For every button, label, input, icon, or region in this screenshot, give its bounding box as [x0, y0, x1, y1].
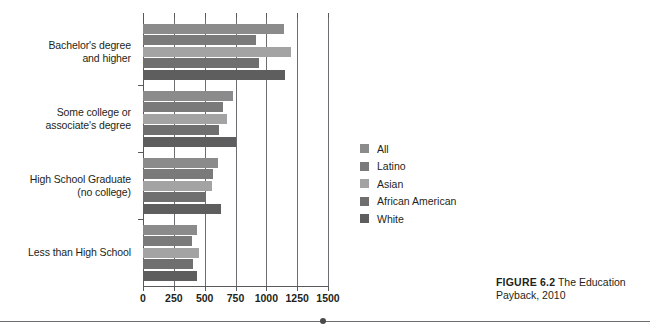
legend-label: All — [377, 143, 389, 155]
category-label: High School Graduate(no college) — [3, 173, 131, 198]
bar — [143, 70, 285, 80]
bar — [143, 271, 197, 281]
bar — [143, 169, 213, 179]
category-label-line: Some college or — [3, 106, 131, 119]
bar-fill — [143, 192, 206, 202]
bar — [143, 114, 227, 124]
bar-group — [143, 219, 328, 286]
bar-group — [143, 152, 328, 219]
legend-swatch-icon — [360, 144, 369, 153]
category-label-line: High School Graduate — [3, 173, 131, 186]
bar-fill — [143, 58, 259, 68]
bar-fill — [143, 24, 284, 34]
bar-fill — [143, 169, 213, 179]
legend-item: All — [360, 141, 456, 156]
bar — [143, 158, 218, 168]
legend-label: African American — [377, 195, 456, 207]
legend-swatch-icon — [360, 197, 369, 206]
tick-top-1500 — [328, 13, 329, 18]
bar-fill — [143, 204, 221, 214]
bar-group — [143, 85, 328, 152]
x-tick-label: 1000 — [255, 292, 278, 304]
bar-fill — [143, 225, 197, 235]
bar — [143, 225, 197, 235]
bar — [143, 181, 212, 191]
legend-swatch-icon — [360, 162, 369, 171]
tick-bottom-1000 — [266, 286, 267, 291]
bar — [143, 91, 233, 101]
tick-bottom-500 — [205, 286, 206, 291]
tick-bottom-250 — [174, 286, 175, 291]
tick-bottom-750 — [236, 286, 237, 291]
bar-fill — [143, 114, 227, 124]
bar-fill — [143, 259, 193, 269]
legend-label: White — [377, 213, 404, 225]
bar-fill — [143, 91, 233, 101]
legend-item: Latino — [360, 159, 456, 174]
figure-caption: FIGURE 6.2 The Education Payback, 2010 — [496, 276, 642, 302]
x-tick-label: 250 — [165, 292, 183, 304]
bar — [143, 35, 256, 45]
chart-legend: AllLatinoAsianAfrican AmericanWhite — [360, 141, 456, 229]
bar-fill — [143, 236, 192, 246]
figure-caption-text-one: The — [555, 276, 576, 288]
bar — [143, 125, 219, 135]
chart-plot-area — [143, 18, 328, 286]
legend-swatch-icon — [360, 214, 369, 223]
legend-item: African American — [360, 194, 456, 209]
bar-fill — [143, 158, 218, 168]
legend-swatch-icon — [360, 179, 369, 188]
bar-fill — [143, 102, 223, 112]
page-divider-dot — [320, 318, 326, 324]
bar-fill — [143, 70, 285, 80]
category-label: Bachelor's degreeand higher — [3, 39, 131, 64]
category-label-line: Less than High School — [3, 246, 131, 259]
x-tick-label: 1500 — [316, 292, 339, 304]
bar-fill — [143, 181, 212, 191]
x-tick-label: 0 — [140, 292, 146, 304]
category-label-line: (no college) — [3, 186, 131, 199]
x-tick-label: 1250 — [285, 292, 308, 304]
tick-bottom-1250 — [297, 286, 298, 291]
bar-fill — [143, 271, 197, 281]
tick-bottom-0 — [143, 286, 144, 291]
bar-fill — [143, 47, 291, 57]
category-label: Less than High School — [3, 246, 131, 259]
category-label-line: Bachelor's degree — [3, 39, 131, 52]
bar — [143, 24, 284, 34]
bar — [143, 248, 199, 258]
bar — [143, 58, 259, 68]
x-tick-label: 500 — [196, 292, 214, 304]
category-label-line: and higher — [3, 52, 131, 65]
bar — [143, 47, 291, 57]
gridline-1500 — [328, 18, 329, 286]
bar-fill — [143, 35, 256, 45]
legend-item: White — [360, 211, 456, 226]
category-label-line: associate's degree — [3, 119, 131, 132]
bar — [143, 192, 206, 202]
legend-label: Latino — [377, 160, 406, 172]
bar — [143, 204, 221, 214]
bar — [143, 102, 223, 112]
bar-fill — [143, 248, 199, 258]
figure-container: Bachelor's degreeand higherSome college … — [0, 0, 650, 332]
bar — [143, 137, 236, 147]
bar-fill — [143, 125, 219, 135]
x-tick-label: 750 — [227, 292, 245, 304]
figure-caption-number: FIGURE 6.2 — [496, 276, 555, 288]
tick-bottom-1500 — [328, 286, 329, 291]
legend-item: Asian — [360, 176, 456, 191]
bar-group — [143, 18, 328, 85]
legend-label: Asian — [377, 178, 403, 190]
category-label: Some college orassociate's degree — [3, 106, 131, 131]
bar — [143, 236, 192, 246]
bar-fill — [143, 137, 236, 147]
bar — [143, 259, 193, 269]
